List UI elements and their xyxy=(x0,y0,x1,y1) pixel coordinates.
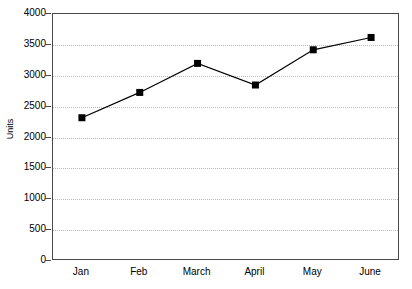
y-axis-tick-mark xyxy=(45,260,51,261)
y-axis-tick-label: 3000 xyxy=(12,70,46,80)
y-axis-tick-labels: 05001000150020002500300035004000 xyxy=(10,0,46,289)
plot-area xyxy=(52,13,399,260)
y-axis-tick-label: 3500 xyxy=(12,39,46,49)
y-axis-tick-mark xyxy=(45,106,51,107)
y-axis-tick-label: 2500 xyxy=(12,101,46,111)
data-point-marker xyxy=(252,82,259,89)
series-line xyxy=(82,37,371,117)
y-axis-tick-mark xyxy=(45,198,51,199)
y-axis-tick-label: 2000 xyxy=(12,132,46,142)
x-axis-tick-label: Feb xyxy=(109,266,169,277)
y-axis-tick-mark xyxy=(45,44,51,45)
data-series-units xyxy=(53,14,400,261)
y-axis-tick-mark xyxy=(45,229,51,230)
x-axis-tick-label: April xyxy=(224,266,284,277)
x-axis-tick-label: Jan xyxy=(51,266,111,277)
y-axis-tick-label: 500 xyxy=(12,224,46,234)
y-axis-tick-mark xyxy=(45,137,51,138)
y-axis-tick-mark xyxy=(45,13,51,14)
series-markers xyxy=(78,34,374,121)
y-axis-tick-label: 1000 xyxy=(12,193,46,203)
y-axis-tick-mark xyxy=(45,75,51,76)
y-axis-tick-label: 1500 xyxy=(12,162,46,172)
data-point-marker xyxy=(368,34,375,41)
data-point-marker xyxy=(136,89,143,96)
data-point-marker xyxy=(310,46,317,53)
line-chart: Units 05001000150020002500300035004000 J… xyxy=(0,0,412,289)
y-axis-tick-mark xyxy=(45,167,51,168)
y-axis-tick-label: 4000 xyxy=(12,8,46,18)
x-axis-tick-label: March xyxy=(167,266,227,277)
x-axis-tick-label: June xyxy=(340,266,400,277)
data-point-marker xyxy=(78,114,85,121)
x-axis-tick-label: May xyxy=(282,266,342,277)
data-point-marker xyxy=(194,60,201,67)
y-axis-tick-label: 0 xyxy=(12,255,46,265)
